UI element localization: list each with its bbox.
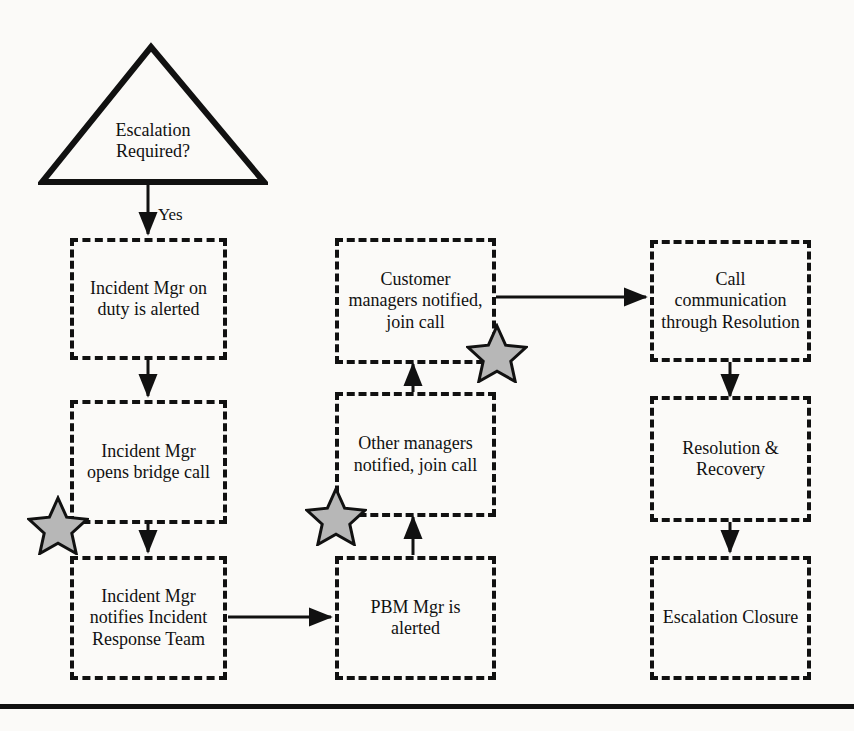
node-label: Call communication through Resolution: [660, 269, 801, 333]
decision-label-line1: Escalation: [116, 120, 191, 140]
node-incident-mgr-alerted: Incident Mgr on duty is alerted: [70, 238, 227, 360]
node-call-communication-resolution: Call communication through Resolution: [650, 240, 811, 362]
node-escalation-closure: Escalation Closure: [650, 556, 811, 680]
node-label: Incident Mgr on duty is alerted: [80, 278, 217, 320]
star-icon: [466, 323, 528, 383]
escalation-required-decision: Escalation Required?: [38, 42, 268, 187]
node-label: Incident Mgr notifies Incident Response …: [80, 586, 217, 650]
edge-label-yes: Yes: [158, 205, 183, 225]
triangle-shape: [38, 42, 268, 187]
star-icon: [305, 486, 367, 546]
node-label: Incident Mgr opens bridge call: [80, 441, 217, 483]
node-label: Escalation Closure: [660, 607, 801, 628]
node-label: Other managers notified, join call: [345, 433, 486, 475]
node-incident-mgr-bridge-call: Incident Mgr opens bridge call: [70, 400, 227, 524]
decision-label: Escalation Required?: [38, 120, 268, 162]
node-label: Resolution & Recovery: [660, 438, 801, 480]
node-pbm-mgr-alerted: PBM Mgr is alerted: [335, 556, 496, 680]
flowchart-canvas: Escalation Required? Yes Incident Mgr o: [0, 0, 854, 731]
node-label: PBM Mgr is alerted: [345, 597, 486, 639]
page-divider-rule: [0, 704, 854, 709]
star-icon: [27, 495, 89, 555]
node-label: Customer managers notified, join call: [345, 269, 486, 333]
decision-label-line2: Required?: [116, 141, 190, 161]
node-resolution-recovery: Resolution & Recovery: [650, 396, 811, 522]
node-incident-mgr-notifies-team: Incident Mgr notifies Incident Response …: [70, 556, 227, 680]
